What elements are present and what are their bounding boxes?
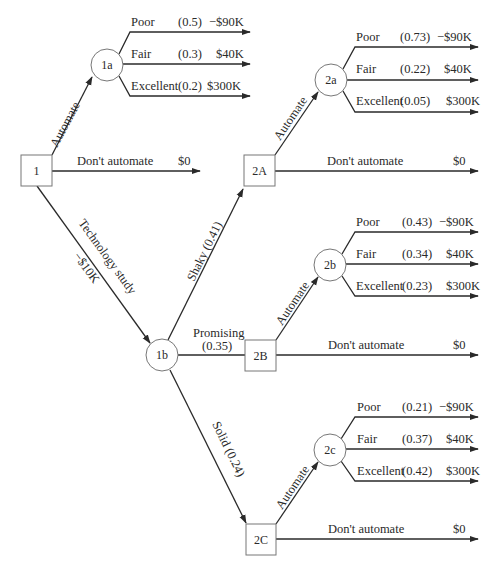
outcome-2c-poor-label: Poor [357, 400, 381, 414]
edge-label-dont-automate-2C: Don't automate [328, 522, 405, 536]
chance-node-1b: 1b [146, 339, 178, 371]
outcome-1a-excellent-value: $300K [207, 79, 241, 93]
outcome-1a-poor-prob: (0.5) [178, 15, 202, 29]
outcome-2a-poor-label: Poor [356, 30, 380, 44]
edge-value-dont-automate-2A: $0 [453, 154, 466, 168]
outcome-2b-poor-value: −$90K [439, 215, 474, 229]
node-label-2A: 2A [252, 164, 267, 178]
edge-label-promising: Promising [193, 326, 245, 340]
outcome-2b-fair-value: $40K [446, 247, 474, 261]
outcome-2a-poor-prob: (0.73) [400, 30, 430, 44]
outcome-2b-excellent-value: $300K [446, 279, 480, 293]
node-label-2c: 2c [324, 443, 335, 457]
outcome-1a-fair-value: $40K [216, 47, 244, 61]
outcome-2a-fair-prob: (0.22) [400, 62, 430, 76]
edge-shaky: Shaky (0.41) [168, 189, 243, 340]
outcome-2b-excellent-label: Excellent [356, 279, 404, 293]
outcome-1a-poor-label: Poor [131, 15, 155, 29]
chance-2c-outcomes: Poor (0.21) −$90K Fair (0.37) $40K Excel… [341, 400, 480, 481]
outcome-2b-fair-label: Fair [356, 247, 377, 261]
outcome-2c-poor-value: −$90K [439, 400, 474, 414]
chance-node-2a: 2a [315, 64, 347, 96]
edge-prob-promising: (0.35) [202, 339, 232, 353]
outcome-1a-fair-label: Fair [131, 47, 152, 61]
edge-label-dont-automate-2A: Don't automate [327, 154, 404, 168]
chance-2b-outcomes: Poor (0.43) −$90K Fair (0.34) $40K Excel… [342, 215, 480, 296]
outcome-2a-fair-label: Fair [356, 62, 377, 76]
edge-value-dont-automate-2B: $0 [453, 338, 466, 352]
decision-node-2A: 2A [244, 155, 275, 186]
chance-node-1a: 1a [91, 49, 123, 81]
edge-promising: Promising (0.35) [178, 326, 245, 355]
outcome-1a-poor-value: −$90K [209, 15, 244, 29]
node-label-1a: 1a [101, 58, 113, 72]
node-label-2b: 2b [324, 258, 336, 272]
edge-label-automate-2B: Automate [273, 279, 312, 328]
chance-node-2b: 2b [314, 249, 346, 281]
outcome-2a-poor-value: −$90K [437, 30, 472, 44]
edge-solid: Solid (0.24) [170, 370, 248, 523]
outcome-2c-fair-label: Fair [357, 432, 378, 446]
edge-label-automate-2C: Automate [273, 463, 312, 512]
outcome-2a-fair-value: $40K [444, 62, 472, 76]
edge-label-solid: Solid (0.24) [209, 419, 248, 479]
decision-node-1: 1 [21, 155, 52, 186]
node-label-2C: 2C [254, 533, 268, 547]
outcome-2b-poor-label: Poor [356, 215, 380, 229]
outcome-1a-excellent-label: Excellent [131, 79, 179, 93]
outcome-2a-excellent-prob: (0.05) [400, 94, 430, 108]
outcome-2c-poor-prob: (0.21) [402, 400, 432, 414]
chance-2a-outcomes: Poor (0.73) −$90K Fair (0.22) $40K Excel… [343, 30, 480, 112]
edge-label-dont-automate-2B: Don't automate [328, 338, 405, 352]
node-label-2a: 2a [325, 73, 337, 87]
decision-tree-diagram: Automate Don't automate $0 Technology st… [0, 0, 496, 571]
edge-dont-automate-1: Don't automate $0 [52, 154, 200, 171]
outcome-1a-excellent-prob: (0.2) [178, 79, 202, 93]
edge-label-dont-automate-1: Don't automate [77, 154, 154, 168]
outcome-2b-excellent-prob: (0.23) [402, 279, 432, 293]
outcome-2c-fair-value: $40K [446, 432, 474, 446]
decision-node-2C: 2C [246, 524, 276, 555]
node-label-1b: 1b [156, 348, 168, 362]
edge-value-dont-automate-1: $0 [178, 154, 191, 168]
outcome-2c-excellent-value: $300K [446, 464, 480, 478]
node-label-1: 1 [34, 164, 40, 178]
edge-automate-1: Automate [47, 77, 92, 155]
outcome-2a-excellent-value: $300K [446, 94, 480, 108]
outcome-2a-excellent-label: Excellent [356, 94, 404, 108]
outcome-2b-poor-prob: (0.43) [402, 215, 432, 229]
edge-label-automate-2A: Automate [271, 94, 310, 143]
outcome-2b-fair-prob: (0.34) [402, 247, 432, 261]
outcome-2c-excellent-label: Excellent [357, 464, 405, 478]
edge-label-shaky: Shaky (0.41) [184, 219, 225, 283]
node-label-2B: 2B [253, 349, 267, 363]
edge-label-automate-1: Automate [47, 99, 83, 149]
chance-1a-outcomes: Poor (0.5) −$90K Fair (0.3) $40K Excelle… [119, 15, 250, 96]
decision-node-2B: 2B [245, 340, 276, 371]
edge-technology-study: Technology study −$10K [37, 186, 150, 343]
edge-value-dont-automate-2C: $0 [453, 522, 466, 536]
chance-node-2c: 2c [314, 434, 346, 466]
outcome-2c-fair-prob: (0.37) [402, 432, 432, 446]
outcome-1a-fair-prob: (0.3) [178, 47, 202, 61]
outcome-2c-excellent-prob: (0.42) [402, 464, 432, 478]
